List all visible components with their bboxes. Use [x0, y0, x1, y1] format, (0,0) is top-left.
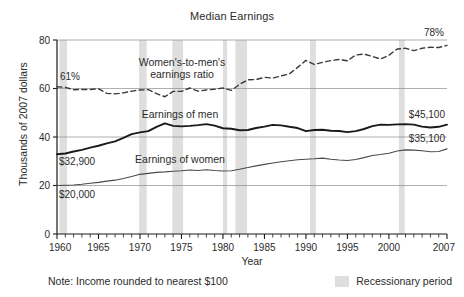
series-label-men: Earnings of men — [142, 108, 219, 120]
chart-legend: Recessionary period — [335, 275, 452, 287]
axis-ticks-group — [53, 40, 447, 239]
annotation-ratio-start: 61% — [60, 71, 80, 82]
y-tick-label: 60 — [39, 83, 51, 94]
gridlines-group — [57, 40, 447, 186]
chart-note: Note: Income rounded to nearest $100 — [48, 275, 228, 287]
x-tick-label: 2000 — [378, 242, 401, 253]
x-tick-label: 2007 — [433, 242, 456, 253]
y-tick-label: 40 — [39, 132, 51, 143]
annotation-men-end: $45,100 — [409, 109, 446, 120]
x-tick-label: 1980 — [212, 242, 235, 253]
chart-annotations-group: 61%78%$32,900$45,100$20,000$35,100Women'… — [59, 27, 445, 200]
y-tick-label: 80 — [39, 35, 51, 46]
y-tick-label: 20 — [39, 180, 51, 191]
median-earnings-chart-figure: Median Earnings Thousands of 2007 dollar… — [0, 0, 464, 297]
x-tick-label: 1970 — [129, 242, 152, 253]
data-series-group — [57, 45, 447, 185]
axis-tick-labels-group: 0204060801960196519701975198019851990199… — [39, 35, 456, 253]
x-tick-label: 1960 — [49, 242, 72, 253]
series-label-women: Earnings of women — [135, 153, 225, 165]
series-line — [57, 149, 447, 186]
x-tick-label: 1965 — [87, 242, 110, 253]
x-tick-label: 1995 — [336, 242, 359, 253]
series-line — [57, 123, 447, 154]
x-tick-label: 1990 — [295, 242, 318, 253]
annotation-ratio-end: 78% — [424, 27, 444, 38]
annotation-men-start: $32,900 — [59, 156, 96, 167]
x-tick-label: 1985 — [253, 242, 276, 253]
y-tick-label: 0 — [44, 229, 50, 240]
x-tick-label: 1975 — [170, 242, 193, 253]
recessionary-period-swatch-icon — [335, 276, 349, 287]
legend-label-recessionary-period: Recessionary period — [356, 275, 452, 287]
annotation-women-start: $20,000 — [59, 189, 96, 200]
series-line — [57, 45, 447, 96]
annotation-women-end: $35,100 — [409, 133, 446, 144]
chart-plot-area: 0204060801960196519701975198019851990199… — [0, 0, 464, 297]
series-label-ratio-line2: earnings ratio — [150, 68, 214, 80]
series-label-ratio: Women's-to-men's — [139, 56, 226, 68]
